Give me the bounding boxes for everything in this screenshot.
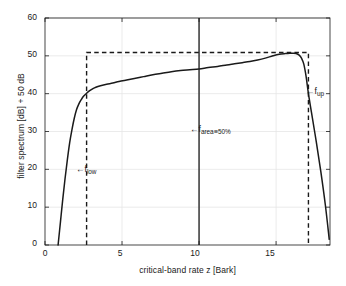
annotation-f-up-arrow: ← [306,86,315,96]
annotation-f-up-subscript: up [317,90,324,97]
annotation-f-area-arrow: ← [190,124,199,134]
annotation-f-area-subscript: area [201,128,214,135]
annotation-f-area: ←farea≡50% [190,124,231,134]
annotation-f-up: ←fup [306,86,324,96]
plot-canvas [0,0,346,286]
annotation-f-area-value: 50% [218,128,231,135]
annotation-f-low-arrow: ← [76,164,85,174]
filter-spectrum-curve [58,53,329,245]
chart-figure: filter spectrum [dB] + 50 dB critical-ba… [0,0,346,286]
annotation-f-low: ←flow [76,164,96,174]
annotation-f-low-subscript: low [87,168,97,175]
